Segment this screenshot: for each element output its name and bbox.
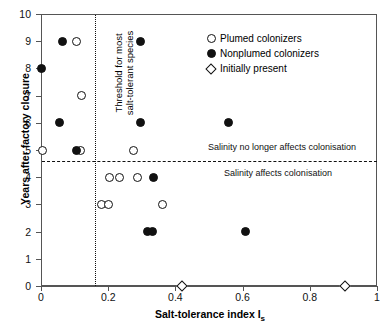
threshold-line-label: Threshold for most salt-tolerant species [113, 23, 135, 123]
y-tick [36, 123, 41, 124]
y-tick [36, 41, 41, 42]
legend-item: Nonplumed colonizers [205, 46, 319, 61]
y-tick [36, 177, 41, 178]
x-tick-label: 0 [21, 292, 61, 303]
y-tick-label: 1 [5, 254, 31, 264]
x-tick-label: 0.2 [88, 292, 128, 303]
open-circle-icon [205, 34, 217, 43]
threshold-label-line-1: Threshold for most [113, 23, 124, 123]
data-point [133, 173, 142, 182]
salt-tolerance-threshold-line [95, 15, 96, 286]
y-tick [36, 232, 41, 233]
data-point [136, 118, 145, 127]
data-point [72, 146, 81, 155]
filled-circle-icon [205, 49, 217, 58]
x-axis-title-subscript: s [261, 314, 265, 323]
open-diamond-icon [205, 65, 217, 73]
threshold-label-line-2: salt-tolerant species [124, 23, 135, 123]
y-tick [36, 259, 41, 260]
x-tick-label: 1 [357, 292, 387, 303]
y-tick-label: 2 [5, 227, 31, 237]
note-salinity-affects: Salinity affects colonisation [224, 168, 332, 178]
scatter-plot: 012345678910 00.20.40.60.81 Years after … [0, 0, 387, 326]
data-point [129, 146, 138, 155]
legend-label: Nonplumed colonizers [220, 46, 319, 61]
data-point [104, 200, 113, 209]
legend-item: Initially present [205, 61, 319, 76]
y-tick-label: 9 [5, 36, 31, 46]
data-point [136, 37, 145, 46]
y-tick-label: 0 [5, 281, 31, 291]
y-tick [36, 14, 41, 15]
legend-label: Initially present [220, 61, 287, 76]
note-salinity-no-longer-affects: Salinity no longer affects colonisation [208, 142, 356, 152]
x-axis-title-text: Salt-tolerance index I [155, 308, 261, 320]
data-point [149, 173, 158, 182]
data-point [72, 37, 81, 46]
x-axis-line [41, 286, 378, 287]
y-tick [36, 204, 41, 205]
legend-item: Plumed colonizers [205, 31, 319, 46]
salinity-effect-threshold-line [42, 161, 377, 162]
y-tick [36, 96, 41, 97]
x-tick-label: 0.8 [290, 292, 330, 303]
legend-label: Plumed colonizers [220, 31, 302, 46]
x-tick-label: 0.4 [155, 292, 195, 303]
data-point [58, 37, 67, 46]
data-point [38, 146, 47, 155]
x-tick-label: 0.6 [223, 292, 263, 303]
y-axis-title: Years after factory closure [19, 59, 31, 219]
legend: Plumed colonizersNonplumed colonizersIni… [205, 31, 319, 76]
x-axis-title: Salt-tolerance index Is [120, 308, 300, 323]
data-point [77, 91, 86, 100]
y-tick-label: 10 [5, 9, 31, 19]
data-point [241, 227, 250, 236]
data-point [37, 64, 46, 73]
